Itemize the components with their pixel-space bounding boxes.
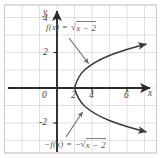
lower-equation-label: −f(x) =−√x − 2 <box>44 139 106 149</box>
x-tick-2: 2 <box>71 90 76 100</box>
upper-equation-lhs: f(x) = <box>46 22 68 32</box>
lower-equation-lhs: −f(x) = <box>44 139 72 149</box>
origin-label: 0 <box>42 90 47 100</box>
upper-equation-radical-group: √x − 2 <box>71 22 96 32</box>
x-axis-label: x <box>148 88 152 98</box>
radical-sign-lower: √ <box>81 139 86 149</box>
upper-equation-label: f(x) =√x − 2 <box>46 22 96 32</box>
y-tick-2: 2 <box>43 47 48 57</box>
lower-equation-radical-group: √x − 2 <box>81 139 106 149</box>
lower-equation-radicand: x − 2 <box>86 138 106 150</box>
graph-figure: y x 4 2 -2 0 2 4 6 f(x) =√x − 2 −f(x) =−… <box>0 0 161 158</box>
upper-equation-radicand: x − 2 <box>76 21 96 33</box>
x-tick-4: 4 <box>89 90 94 100</box>
y-tick-neg2: -2 <box>39 117 47 127</box>
x-tick-6: 6 <box>124 90 129 100</box>
